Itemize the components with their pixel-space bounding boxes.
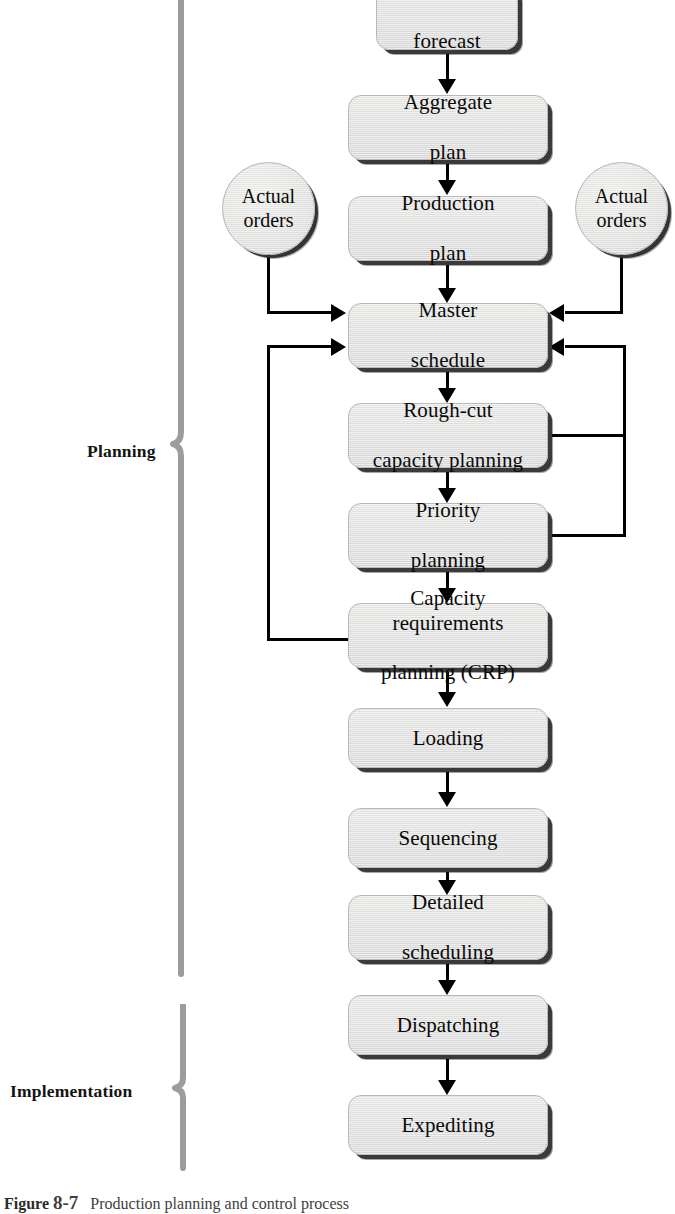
actual-orders-left-line1: Actual: [242, 185, 295, 207]
edge-actualorders-left-across: [267, 311, 333, 314]
arrowhead-loading-to-sequencing: [438, 792, 456, 807]
node-priority-planning[interactable]: Priority planning: [348, 503, 548, 568]
planning-brace: [168, 0, 190, 982]
node-dispatching[interactable]: Dispatching: [348, 995, 548, 1055]
edge-crp-feedback-out: [267, 638, 351, 641]
node-aggregate-plan[interactable]: Aggregate plan: [348, 95, 548, 160]
node-loading[interactable]: Loading: [348, 708, 548, 768]
node-master-schedule-line1: Master: [405, 298, 491, 323]
node-production-plan-line2: plan: [395, 241, 500, 266]
group-label-planning: Planning: [87, 441, 156, 462]
figure-caption-text: Production planning and control process: [90, 1195, 349, 1212]
node-detailed-scheduling-text: Detailed scheduling: [390, 890, 506, 964]
node-capacity-requirements-planning[interactable]: Capacity requirements planning (CRP): [348, 603, 548, 668]
group-label-implementation: Implementation: [10, 1081, 132, 1102]
edge-actualorders-right-across: [565, 311, 623, 314]
node-loading-text: Loading: [407, 726, 490, 751]
edge-dispatching-to-expediting: [446, 1055, 449, 1082]
node-demand-forecast[interactable]: Demand forecast: [376, 0, 518, 50]
actual-orders-right-line2: orders: [597, 209, 647, 231]
node-production-plan[interactable]: Production plan: [348, 196, 548, 261]
node-rough-cut-capacity-planning[interactable]: Rough-cut capacity planning: [348, 403, 548, 468]
implementation-brace: [170, 1004, 192, 1172]
node-rough-cut-text: Rough-cut capacity planning: [361, 398, 535, 472]
actual-orders-left-circle[interactable]: Actual orders: [222, 162, 315, 255]
node-aggregate-plan-line1: Aggregate: [398, 90, 498, 115]
node-priority-planning-line2: planning: [405, 548, 491, 573]
edge-crp-feedback-in: [267, 345, 333, 348]
edge-roughcut-feedback-out: [546, 434, 626, 437]
node-demand-forecast-text: Demand forecast: [399, 0, 495, 54]
node-detailed-scheduling[interactable]: Detailed scheduling: [348, 895, 548, 960]
node-dispatching-text: Dispatching: [391, 1013, 506, 1038]
node-detailed-scheduling-line1: Detailed: [396, 890, 500, 915]
node-rough-cut-line2: capacity planning: [367, 448, 529, 473]
node-production-plan-text: Production plan: [389, 191, 506, 265]
edge-demand-to-aggregate: [446, 50, 449, 81]
node-crp-line2: planning (CRP): [355, 660, 541, 685]
node-detailed-scheduling-line2: scheduling: [396, 940, 500, 965]
arrowhead-crp-feedback-to-master: [331, 338, 346, 356]
arrowhead-dispatching-to-expediting: [438, 1080, 456, 1095]
node-sequencing-text: Sequencing: [393, 826, 504, 851]
node-aggregate-plan-text: Aggregate plan: [392, 90, 504, 164]
arrowhead-actualorders-left-to-master: [331, 304, 346, 322]
node-production-plan-line1: Production: [395, 191, 500, 216]
figure-caption: Figure 8-7 Production planning and contr…: [4, 1192, 349, 1214]
actual-orders-left-text: Actual orders: [242, 185, 295, 232]
node-demand-forecast-line2: forecast: [405, 29, 489, 54]
node-rough-cut-line1: Rough-cut: [367, 398, 529, 423]
edge-actualorders-left-drop: [267, 252, 270, 314]
node-crp-line1: Capacity requirements: [355, 586, 541, 636]
edge-actualorders-right-drop: [620, 252, 623, 314]
edge-priority-feedback-out: [546, 534, 626, 537]
actual-orders-right-line1: Actual: [595, 185, 648, 207]
node-priority-planning-text: Priority planning: [399, 498, 497, 572]
actual-orders-right-circle[interactable]: Actual orders: [575, 162, 668, 255]
actual-orders-right-text: Actual orders: [595, 185, 648, 232]
node-master-schedule-text: Master schedule: [399, 298, 497, 372]
edge-loading-to-sequencing: [446, 768, 449, 795]
node-master-schedule-line2: schedule: [405, 348, 491, 373]
node-priority-planning-line1: Priority: [405, 498, 491, 523]
edge-crp-feedback-riser: [267, 345, 270, 641]
arrowhead-crp-to-loading: [438, 692, 456, 707]
node-master-schedule[interactable]: Master schedule: [348, 303, 548, 368]
node-expediting[interactable]: Expediting: [348, 1095, 548, 1155]
figure-caption-label: Figure: [4, 1195, 49, 1212]
node-expediting-text: Expediting: [395, 1113, 500, 1138]
node-aggregate-plan-line2: plan: [398, 140, 498, 165]
edge-right-feedback-riser: [623, 345, 626, 537]
arrowhead-right-feedback-to-master: [549, 338, 564, 356]
node-crp-text: Capacity requirements planning (CRP): [349, 586, 547, 685]
figure-caption-number: 8-7: [53, 1192, 78, 1213]
actual-orders-left-line2: orders: [244, 209, 294, 231]
edge-right-feedback-in: [565, 345, 626, 348]
node-demand-forecast-line1: Demand: [405, 0, 489, 5]
arrowhead-detailed-to-dispatching: [438, 980, 456, 995]
arrowhead-actualorders-right-to-master: [549, 304, 564, 322]
node-sequencing[interactable]: Sequencing: [348, 808, 548, 868]
